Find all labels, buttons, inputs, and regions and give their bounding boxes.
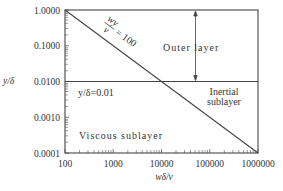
- outer-layer-label: Outer layer: [163, 42, 219, 53]
- y-tick-1: 1.0000: [34, 6, 60, 16]
- eq-denominator: ν: [102, 24, 113, 36]
- y-tick-5: 0.0001: [34, 149, 60, 159]
- x-tick-5: 1000000: [241, 159, 275, 169]
- eq-value: = 100: [114, 26, 139, 49]
- viscous-label: Viscous sublayer: [79, 130, 163, 141]
- x-axis-ticks: [65, 149, 258, 153]
- x-tick-4: 100000: [196, 159, 225, 169]
- inertial-label-2: sublayer: [207, 96, 242, 107]
- x-tick-3: 10000: [150, 159, 174, 169]
- x-axis-label: wδ/ν: [155, 172, 173, 182]
- x-tick-2: 1000: [104, 159, 123, 169]
- diagonal-equation-label: wy ν = 100: [99, 13, 143, 53]
- hline-label: y/δ=0.01: [78, 87, 114, 98]
- y-tick-2: 0.1000: [34, 41, 60, 51]
- y-tick-4: 0.0010: [34, 113, 60, 123]
- chart: 1.0000 0.1000 0.0100 0.0010 0.0001 y/δ 1…: [0, 0, 283, 191]
- x-tick-1: 100: [58, 159, 73, 169]
- y-axis-label: y/δ: [2, 76, 15, 86]
- y-tick-3: 0.0100: [34, 77, 60, 87]
